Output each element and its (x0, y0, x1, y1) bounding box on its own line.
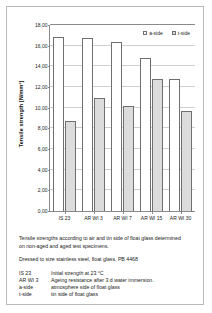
bars-layer: IS 23AR WI 3AR WI 7AR WI 15AR WI 30 (50, 25, 195, 211)
caption-key-description: Initial strength at 23 °C (51, 270, 193, 277)
bar-a-side (53, 37, 64, 211)
bar-group: AR WI 15 (137, 25, 166, 211)
y-axis-tick-label: 14,00 (35, 63, 48, 69)
bar-t-side (65, 121, 76, 211)
bar-group: AR WI 30 (166, 25, 195, 211)
bar-group: AR WI 3 (79, 25, 108, 211)
caption-key-table: IS 23Initial strength at 23 °CAR WI 3Age… (19, 270, 193, 299)
chart-legend: a-side t-side (143, 30, 190, 36)
y-axis-title: Tensile strength [N/mm²] (14, 16, 28, 212)
caption-key-description: Ageing resistance after 3 d water immers… (51, 277, 193, 284)
caption-specimen-line: Dressed to size stainless steel, float g… (19, 256, 193, 264)
caption-key-term: IS 23 (19, 270, 51, 277)
caption-key-row: a-sideatmosphere side of float glass (19, 284, 193, 291)
y-axis-title-text: Tensile strength [N/mm²] (18, 81, 24, 148)
bar-t-side (123, 106, 134, 211)
y-axis-tick-label: 8,00 (38, 125, 48, 131)
x-axis-tick-label: AR WI 15 (141, 215, 162, 221)
caption-key-description: atmosphere side of float glass (51, 284, 193, 291)
caption-key-row: IS 23Initial strength at 23 °C (19, 270, 193, 277)
x-axis-tick-label: AR WI 30 (170, 215, 191, 221)
bar-a-side (82, 38, 93, 211)
caption-line-2: on non-aged and aged test specimens. (19, 243, 193, 251)
legend-swatch-a-side-icon (143, 31, 147, 35)
bar-group: AR WI 7 (108, 25, 137, 211)
bar-t-side (181, 111, 192, 211)
caption-key-row: t-sidetin side of float glass (19, 291, 193, 298)
x-axis-tick-label: AR WI 7 (113, 215, 132, 221)
caption-key-row: AR WI 3Ageing resistance after 3 d water… (19, 277, 193, 284)
bar-t-side (152, 79, 163, 211)
caption-key-term: AR WI 3 (19, 277, 51, 284)
x-axis-tick-mark (123, 211, 124, 214)
caption-specimen: Dressed to size stainless steel, float g… (19, 256, 193, 264)
x-axis-tick-label: IS 23 (59, 215, 71, 221)
y-axis-tick-label: 18,00 (35, 22, 48, 28)
y-axis-tick-label: 10,00 (35, 105, 48, 111)
legend-item-t-side: t-side (172, 30, 190, 36)
y-axis-tick-mark (48, 211, 50, 212)
legend-swatch-t-side-icon (172, 31, 176, 35)
caption-key-term: t-side (19, 291, 51, 298)
caption-key-term: a-side (19, 284, 51, 291)
bar-t-side (94, 98, 105, 211)
legend-label-t-side: t-side (178, 30, 190, 36)
y-axis-tick-label: 6,00 (38, 146, 48, 152)
figure-frame: Tensile strength [N/mm²] 0,002,004,006,0… (6, 6, 204, 305)
chart-region: Tensile strength [N/mm²] 0,002,004,006,0… (16, 16, 196, 228)
caption-key-description: tin side of float glass (51, 291, 193, 298)
figure-caption: Tensile strengths according to air and t… (19, 235, 193, 299)
caption-line-1: Tensile strengths according to air and t… (19, 235, 193, 243)
legend-item-a-side: a-side (143, 30, 163, 36)
bar-a-side (140, 58, 151, 211)
x-axis-tick-mark (181, 211, 182, 214)
y-axis-tick-label: 12,00 (35, 84, 48, 90)
caption-description: Tensile strengths according to air and t… (19, 235, 193, 250)
y-axis-tick-label: 0,00 (38, 208, 48, 214)
legend-label-a-side: a-side (149, 30, 163, 36)
bar-group: IS 23 (50, 25, 79, 211)
x-axis-tick-mark (94, 211, 95, 214)
y-axis-tick-label: 4,00 (38, 167, 48, 173)
y-axis-tick-label: 16,00 (35, 43, 48, 49)
x-axis-tick-mark (152, 211, 153, 214)
x-axis-tick-mark (65, 211, 66, 214)
x-axis-tick-label: AR WI 3 (84, 215, 103, 221)
bar-a-side (169, 79, 180, 211)
bar-a-side (111, 42, 122, 211)
plot-area: 0,002,004,006,008,0010,0012,0014,0016,00… (49, 25, 195, 212)
y-axis-tick-label: 2,00 (38, 187, 48, 193)
